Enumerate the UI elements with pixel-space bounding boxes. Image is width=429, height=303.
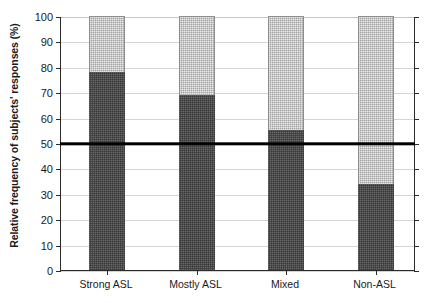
bar-segment-light (179, 16, 215, 95)
y-tick-mark (56, 271, 61, 272)
y-tick-mark-right (414, 195, 419, 196)
y-tick-label: 90 (41, 36, 53, 48)
x-tick-label-mostly-asl: Mostly ASL (169, 278, 222, 290)
bar-segment-light (89, 16, 125, 72)
y-tick-mark-right (414, 93, 419, 94)
y-tick-label: 40 (41, 163, 53, 175)
y-tick-mark (56, 42, 61, 43)
y-tick-mark (56, 246, 61, 247)
stacked-bar-chart: Relative frequency of subjects' response… (0, 0, 429, 303)
y-tick-label: 10 (41, 240, 53, 252)
y-tick-label: 20 (41, 214, 53, 226)
y-tick-label: 70 (41, 87, 53, 99)
y-tick-label: 60 (41, 113, 53, 125)
y-tick-mark-right (414, 42, 419, 43)
y-tick-mark (56, 119, 61, 120)
y-tick-mark (56, 68, 61, 69)
bar-segment-dark (89, 72, 125, 270)
gridline (61, 271, 414, 272)
plot-area: 0102030405060708090100 (60, 17, 415, 271)
y-tick-mark-right (414, 119, 419, 120)
y-tick-mark-right (414, 68, 419, 69)
bar-segment-light (358, 16, 394, 184)
bar-segment-dark (179, 95, 215, 270)
y-tick-label: 30 (41, 189, 53, 201)
x-tick-label-strong-asl: Strong ASL (79, 278, 132, 290)
reference-line-50 (60, 142, 415, 145)
y-axis-title: Relative frequency of subjects' response… (3, 0, 25, 271)
y-tick-label: 80 (41, 62, 53, 74)
y-tick-mark-right (414, 17, 419, 18)
x-tick-mark (376, 270, 377, 275)
y-tick-mark (56, 17, 61, 18)
y-tick-label: 100 (35, 11, 53, 23)
y-tick-mark (56, 169, 61, 170)
y-tick-mark-right (414, 169, 419, 170)
x-tick-mark (286, 270, 287, 275)
y-tick-label: 0 (47, 265, 53, 277)
x-tick-mark (107, 270, 108, 275)
y-tick-mark (56, 195, 61, 196)
y-tick-mark-right (414, 271, 419, 272)
y-tick-mark-right (414, 246, 419, 247)
bar-segment-dark (268, 130, 304, 270)
y-tick-label: 50 (41, 138, 53, 150)
y-tick-mark (56, 93, 61, 94)
x-tick-label-mixed: Mixed (271, 278, 299, 290)
x-tick-label-non-asl: Non-ASL (353, 278, 396, 290)
bar-segment-light (268, 16, 304, 130)
x-tick-mark (197, 270, 198, 275)
y-tick-mark-right (414, 220, 419, 221)
bar-segment-dark (358, 184, 394, 270)
y-tick-mark (56, 220, 61, 221)
